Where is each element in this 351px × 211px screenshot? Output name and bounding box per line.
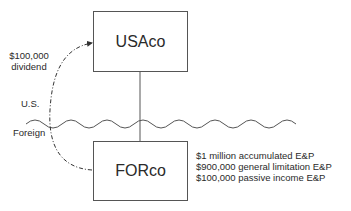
- forco-box: FORco: [93, 141, 188, 201]
- forco-label: FORco: [115, 162, 166, 180]
- usaco-box: USAco: [93, 11, 188, 72]
- ep-note-general: $900,000 general limitation E&P: [196, 161, 332, 172]
- ep-note-accumulated: $1 million accumulated E&P: [196, 150, 332, 161]
- us-label: U.S.: [21, 98, 39, 109]
- border-wave-line: [26, 120, 296, 128]
- ep-note-passive: $100,000 passive income E&P: [196, 172, 332, 183]
- ep-notes: $1 million accumulated E&P $900,000 gene…: [196, 150, 332, 183]
- dividend-label: $100,000 dividend: [7, 50, 51, 72]
- dividend-type: dividend: [7, 61, 51, 72]
- dividend-amount: $100,000: [7, 50, 51, 61]
- dividend-arrow: [50, 43, 92, 170]
- usaco-label: USAco: [116, 33, 166, 51]
- foreign-label: Foreign: [13, 127, 45, 138]
